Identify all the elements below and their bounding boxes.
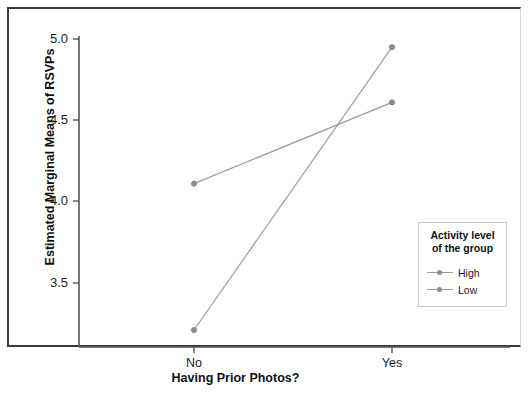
- data-point-high-yes: [389, 100, 394, 105]
- line-marker-icon: [427, 285, 453, 295]
- line-marker-icon: [427, 268, 453, 278]
- series-line-low: [191, 45, 394, 333]
- legend-item-low[interactable]: Low: [423, 281, 502, 298]
- x-axis-ticks: [194, 347, 392, 353]
- interaction-plot-figure: 5.0 4.5 4.0 3.5 No Yes Estimated Margina…: [0, 0, 528, 401]
- legend-item-label-high: High: [458, 267, 480, 279]
- legend: Activity level of the group High Low: [418, 222, 507, 307]
- y-axis-ticks: [73, 39, 79, 283]
- data-point-high-no: [191, 181, 196, 186]
- legend-item-high[interactable]: High: [423, 264, 502, 281]
- plot-canvas: [0, 0, 528, 401]
- x-tick-label-no: No: [164, 356, 224, 370]
- x-axis-title: Having Prior Photos?: [79, 371, 392, 385]
- y-axis-title: Estimated Marginal Means of RSVPs: [43, 27, 57, 287]
- data-point-low-no: [191, 327, 196, 332]
- legend-title: Activity level of the group: [423, 229, 502, 255]
- legend-item-label-low: Low: [458, 284, 477, 296]
- x-tick-label-yes: Yes: [362, 356, 422, 370]
- data-point-low-yes: [389, 45, 394, 50]
- series-line-high: [191, 100, 394, 186]
